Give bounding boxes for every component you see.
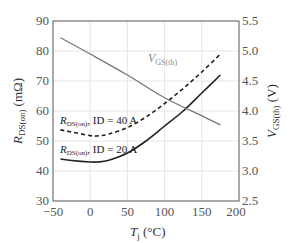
y-tick: 50	[36, 133, 49, 148]
y-tick: 90	[36, 13, 49, 28]
y2-tick: 4.5	[242, 73, 258, 88]
x-tick: 150	[192, 204, 212, 219]
y-tick: 40	[36, 163, 49, 178]
y2-axis-ticks: 2.5 3.0 3.5 4.0 4.5 5.0 5.5	[242, 13, 258, 208]
grid	[53, 21, 239, 201]
y2-tick: 5.5	[242, 13, 258, 28]
y2-tick: 4.0	[242, 103, 258, 118]
y2-tick: 3.0	[242, 163, 258, 178]
y-tick: 60	[36, 103, 49, 118]
x-tick: 50	[121, 204, 134, 219]
r20-annotation: RDS(on), ID = 20 A	[59, 143, 137, 157]
y2-tick: 3.5	[242, 133, 258, 148]
y2-tick: 5.0	[242, 43, 258, 58]
y-tick: 80	[36, 43, 49, 58]
x-axis-label: Tj (°C)	[130, 224, 166, 241]
y-tick: 70	[36, 73, 49, 88]
x-tick: −50	[43, 204, 63, 219]
vgs-annotation: VGS(th)	[148, 51, 177, 67]
y-axis-label: RDS(on) (mΩ)	[10, 78, 27, 145]
x-axis-ticks: −50 0 50 100 150 200	[43, 204, 246, 219]
x-tick: 200	[226, 204, 246, 219]
curves	[60, 38, 220, 162]
x-tick: 0	[87, 204, 94, 219]
x-tick: 100	[155, 204, 175, 219]
y-axis-ticks: 30 40 50 60 70 80 90	[36, 13, 49, 208]
r40-annotation: RDS(on), ID = 40 A	[59, 114, 137, 128]
chart-svg: 30 40 50 60 70 80 90 2.5 3.0 3.5 4.0 4.5…	[0, 0, 290, 243]
y2-axis-label: VGS(th) (V)	[264, 84, 281, 138]
